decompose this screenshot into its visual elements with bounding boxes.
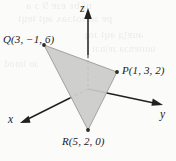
vertex-dot-p [115, 70, 119, 74]
axis-label-x: x [8, 113, 13, 125]
axis-label-y: y [160, 108, 165, 120]
axis-x-arrowhead [20, 116, 31, 123]
vertex-dot-r [86, 128, 90, 132]
triangle-pqr-face [44, 45, 117, 130]
axis-z-arrowhead [84, 8, 92, 19]
point-label-p-text: P(1, 3, 2) [122, 64, 165, 76]
point-label-q: Q(3, −1, 6) [3, 33, 54, 45]
axis-label-z: z [80, 2, 84, 14]
figure-container: ni bε eɹɐ 9 ɔ ǝ pɐ ɹo ɹoʇɔǝʌ ǝɥʇ ʇɐɥʇ ǝu… [0, 0, 176, 161]
axis-y-arrowhead [151, 99, 163, 106]
point-label-r: R(5, 2, 0) [62, 135, 105, 147]
point-label-p: P(1, 3, 2) [122, 64, 165, 76]
point-label-r-text: R(5, 2, 0) [62, 135, 105, 147]
point-label-q-text: Q(3, −1, 6) [3, 33, 54, 45]
